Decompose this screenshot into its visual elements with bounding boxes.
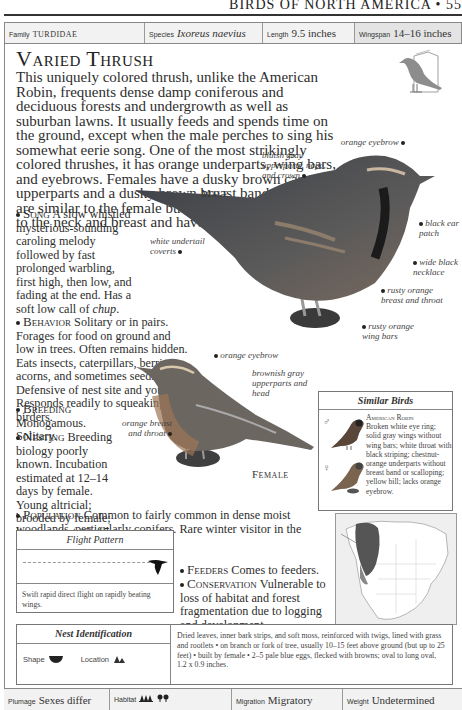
length-value: 9.5 inches (291, 27, 336, 39)
flight-diagram (17, 550, 173, 584)
flight-pattern-box: Flight Pattern Swift rapid direct flight… (16, 530, 174, 613)
footer-bar: Plumage Sexes differ Habitat Migration M… (4, 688, 462, 710)
tree-location-icon (113, 654, 127, 664)
male-necklace-callout: wide black necklace (413, 257, 461, 277)
female-upperparts-callout: brownish gray upperparts and head (252, 368, 310, 398)
wingspan-label: Wingspan (359, 31, 390, 38)
similar-birds-heading: Similar Birds (319, 392, 452, 410)
flight-path-line (23, 562, 165, 563)
cup-nest-shape-icon (49, 655, 63, 664)
conservation-heading: Conservation (187, 576, 257, 591)
migration-value: Migratory (268, 694, 313, 706)
north-america-map (336, 514, 456, 624)
coniferous-forest-icon (139, 694, 153, 702)
similar-birds-box: Similar Birds ♂ ♀ American Robin Broken … (318, 391, 453, 511)
population-heading: Population (23, 507, 81, 522)
range-map (335, 513, 457, 625)
male-label: Male (201, 187, 228, 199)
deciduous-forest-icon (157, 694, 169, 702)
perching-bird-category-icon (398, 48, 448, 100)
nest-id-left: Nest Identification Shape Location (17, 625, 171, 684)
family-value: TURDIDAE (33, 27, 78, 39)
breeding-heading: Breeding (23, 401, 71, 416)
habitat-cell: Habitat (110, 689, 232, 710)
wingspan-cell: Wingspan 14–16 inches (355, 23, 461, 43)
plumage-value: Sexes differ (39, 694, 92, 706)
running-head: BIRDS OF NORTH AMERICA • 557 (229, 0, 462, 14)
plumage-cell: Plumage Sexes differ (4, 689, 110, 710)
female-label: Female (252, 468, 289, 480)
species-cell: Species Ixoreus naevius (145, 23, 263, 43)
nest-id-heading: Nest Identification (17, 625, 170, 644)
weight-value: Undetermined (372, 694, 435, 706)
flight-pattern-text: Swift rapid direct flight on rapidly bea… (17, 584, 173, 615)
female-breast-callout: orange breast and throat (112, 418, 172, 438)
female-eyebrow-callout: orange eyebrow (214, 350, 294, 360)
similar-bird-text: Broken white eye ring; solid gray wings … (366, 422, 452, 495)
male-eyebrow-callout: orange eyebrow (325, 137, 405, 147)
location-label: Location (81, 655, 109, 664)
robin-male-icon (329, 416, 367, 451)
species-value: Ixoreus naevius (177, 27, 246, 39)
behavior-heading: Behavior (23, 314, 71, 329)
species-label: Species (149, 31, 174, 38)
male-upperparts-callout: bluish gray upperparts, nape, and crown (262, 150, 330, 180)
migration-cell: Migration Migratory (232, 689, 343, 710)
flight-pattern-heading: Flight Pattern (17, 531, 173, 550)
similar-birds-description: American Robin Broken white eye ring; so… (366, 413, 452, 496)
male-breast-callout: rusty orange breast and throat (381, 285, 447, 305)
family-label: Family (9, 31, 30, 38)
family-cell: Family TURDIDAE (5, 23, 145, 43)
song-text: A slow whistled mysterious-sounding caro… (16, 207, 132, 316)
male-wing-bars-callout: rusty orange wing bars (362, 321, 420, 341)
robin-female-icon (329, 459, 367, 494)
nest-id-icons: Shape Location (17, 644, 170, 674)
info-bar: Family TURDIDAE Species Ixoreus naevius … (4, 22, 462, 44)
similar-bird-name: American Robin (366, 413, 414, 422)
male-ear-patch-callout: black ear patch (419, 218, 459, 238)
length-label: Length (267, 31, 288, 38)
feeders-text: Comes to feeders. (231, 563, 319, 577)
flying-bird-icon (148, 555, 170, 577)
nest-id-text: Dried leaves, inner bark strips, and sof… (171, 625, 452, 684)
shape-label: Shape (23, 655, 45, 664)
song-section: Song A slow whistled mysterious-sounding… (16, 207, 136, 316)
song-heading: Song (23, 206, 50, 221)
male-undertail-callout: white undertail coverts (150, 236, 216, 256)
length-cell: Length 9.5 inches (263, 23, 355, 43)
header-rule (4, 14, 462, 16)
wingspan-value: 14–16 inches (393, 27, 451, 39)
song-call: chup (93, 302, 117, 316)
feeders-heading: Feeders (187, 562, 228, 577)
nesting-heading: Nesting (23, 429, 64, 444)
nest-identification-box: Nest Identification Shape Location Dried… (16, 624, 453, 685)
weight-cell: Weight Undetermined (343, 689, 462, 710)
